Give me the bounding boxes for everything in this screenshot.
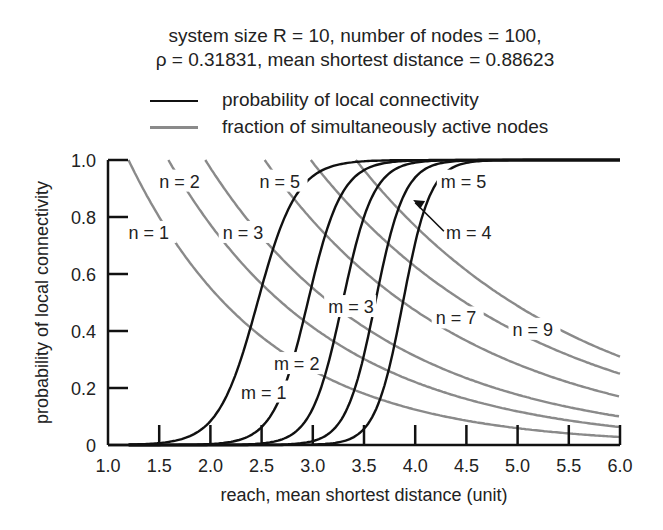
x-tick-label: 6.0 xyxy=(607,456,632,476)
y-tick-label: 1.0 xyxy=(71,151,96,171)
curve-label: n = 2 xyxy=(159,172,200,192)
y-tick-label: 0 xyxy=(86,436,96,456)
y-tick-label: 0.8 xyxy=(71,208,96,228)
x-tick-label: 4.5 xyxy=(454,456,479,476)
x-tick-label: 1.5 xyxy=(147,456,172,476)
x-tick-label: 3.0 xyxy=(300,456,325,476)
y-axis-label: probability of local connectivity xyxy=(32,181,52,424)
curve-label: m = 5 xyxy=(441,172,487,192)
y-tick-label: 0.2 xyxy=(71,379,96,399)
x-tick-label: 2.5 xyxy=(249,456,274,476)
x-tick-label: 5.0 xyxy=(505,456,530,476)
curve-label: m = 1 xyxy=(241,383,287,403)
y-tick-label: 0.4 xyxy=(71,322,96,342)
x-tick-label: 4.0 xyxy=(403,456,428,476)
curve-label: m = 3 xyxy=(328,297,374,317)
y-tick-label: 0.6 xyxy=(71,265,96,285)
curve-label: m = 4 xyxy=(446,223,492,243)
x-tick-label: 5.5 xyxy=(556,456,581,476)
curve-label: n = 7 xyxy=(436,308,477,328)
active-nodes-curve xyxy=(168,160,619,427)
x-tick-label: 1.0 xyxy=(95,456,120,476)
x-tick-label: 2.0 xyxy=(198,456,223,476)
curve-label: n = 3 xyxy=(223,223,264,243)
plot-area: 00.20.40.60.81.01.01.52.02.53.03.54.04.5… xyxy=(0,0,663,530)
curve-label: m = 2 xyxy=(274,354,320,374)
curve-label: n = 9 xyxy=(512,320,553,340)
m4-arrow-head-icon xyxy=(413,200,425,209)
x-axis-label: reach, mean shortest distance (unit) xyxy=(220,485,507,505)
curve-label: n = 1 xyxy=(128,223,169,243)
x-tick-label: 3.5 xyxy=(351,456,376,476)
curve-label: n = 5 xyxy=(260,172,301,192)
